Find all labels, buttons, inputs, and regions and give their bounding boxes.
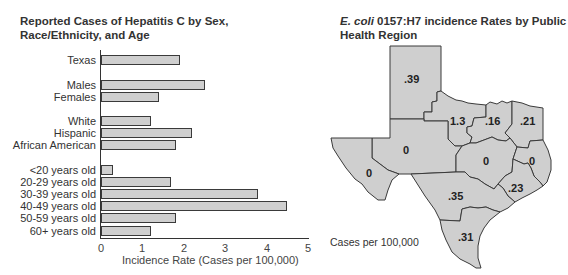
region-value-label: .16 bbox=[485, 115, 500, 127]
region-west bbox=[372, 119, 462, 174]
region-value-label: .21 bbox=[520, 115, 535, 127]
region-value-label: .31 bbox=[458, 231, 473, 243]
region-value-label: .39 bbox=[404, 73, 419, 85]
region-value-label: 1.3 bbox=[450, 115, 465, 127]
texas-region-map: .39 1.3 .16 .21 0 0 0 0 .23 .35 .31 bbox=[0, 0, 568, 275]
region-value-label: .23 bbox=[508, 182, 523, 194]
map-legend: Cases per 100,000 bbox=[330, 236, 419, 248]
region-value-label: 0 bbox=[483, 155, 489, 167]
region-value-label: 0 bbox=[366, 167, 372, 179]
region-value-label: .35 bbox=[448, 190, 463, 202]
region-value-label: 0 bbox=[529, 155, 535, 167]
region-value-label: 0 bbox=[403, 144, 409, 156]
